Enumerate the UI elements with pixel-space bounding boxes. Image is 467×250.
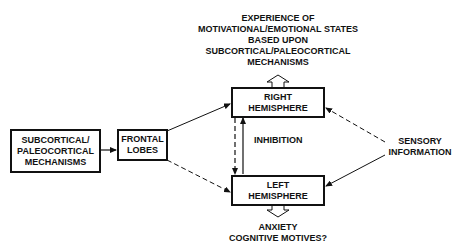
top-label-line: MECHANISMS	[178, 57, 378, 68]
top-label-line: BASED UPON	[178, 35, 378, 46]
hollow-arrow-up-icon	[267, 75, 289, 87]
edge-frontal-to-left	[167, 160, 230, 192]
label-line: INFORMATION	[385, 147, 455, 158]
edge-sensory-to-left	[326, 155, 385, 186]
edge-sensory-to-right	[326, 108, 385, 142]
top-label-line: EXPERIENCE OF	[178, 13, 378, 24]
node-label-line: LOBES	[127, 145, 158, 156]
node-label-line: FRONTAL	[121, 134, 163, 145]
bottom-label: ANXIETY COGNITIVE MOTIVES?	[208, 222, 348, 244]
node-label-line: SUBCORTICAL/	[22, 135, 90, 146]
top-label: EXPERIENCE OF MOTIVATIONAL/EMOTIONAL STA…	[178, 13, 378, 68]
label-line: COGNITIVE MOTIVES?	[208, 233, 348, 244]
node-label-line: PALEOCORTICAL	[17, 146, 94, 157]
node-subcortical-mechanisms: SUBCORTICAL/ PALEOCORTICAL MECHANISMS	[10, 129, 101, 173]
top-label-line: SUBCORTICAL/PALEOCORTICAL	[178, 46, 378, 57]
hollow-arrow-down-icon	[267, 205, 289, 217]
node-label-line: HEMISPHERE	[248, 103, 308, 114]
inhibition-label: INHIBITION	[254, 135, 303, 146]
node-right-hemisphere: RIGHT HEMISPHERE	[231, 87, 325, 118]
label-line: ANXIETY	[208, 222, 348, 233]
node-label-line: MECHANISMS	[25, 157, 87, 168]
node-label-line: LEFT	[267, 180, 290, 191]
node-label-line: RIGHT	[264, 92, 292, 103]
edge-frontal-to-right	[167, 104, 230, 131]
sensory-information-label: SENSORY INFORMATION	[385, 136, 455, 158]
node-left-hemisphere: LEFT HEMISPHERE	[231, 175, 325, 206]
node-frontal-lobes: FRONTAL LOBES	[117, 129, 168, 161]
top-label-line: MOTIVATIONAL/EMOTIONAL STATES	[178, 24, 378, 35]
node-label-line: HEMISPHERE	[248, 191, 308, 202]
label-line: SENSORY	[385, 136, 455, 147]
